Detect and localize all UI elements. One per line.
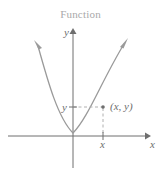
curve-arrowhead-left-icon: [34, 40, 42, 50]
function-graph-figure: Function y x y x (x, y): [0, 0, 161, 176]
y-axis-label: y: [64, 27, 69, 38]
parabola-curve: [38, 44, 124, 133]
x-axis-label: x: [150, 139, 155, 150]
y-axis-arrowhead-icon: [70, 28, 77, 34]
x-tick-label: x: [100, 139, 105, 150]
marked-point-dot: [101, 105, 105, 109]
point-coordinate-label: (x, y): [110, 101, 133, 112]
y-tick-label: y: [62, 102, 67, 113]
graph-canvas: [0, 0, 161, 176]
curve-arrowhead-right-icon: [120, 38, 128, 49]
